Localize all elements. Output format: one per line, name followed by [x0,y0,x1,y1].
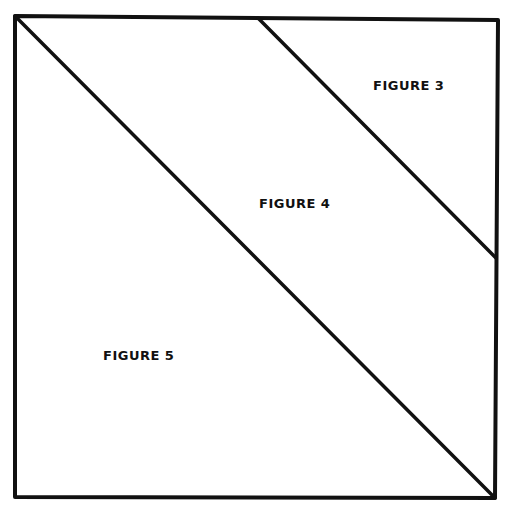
figure-4-label: FIGURE 4 [259,196,330,211]
inner-diagonal [258,18,496,258]
figure-5-label: FIGURE 5 [103,348,174,363]
figure-3-label: FIGURE 3 [373,78,444,93]
